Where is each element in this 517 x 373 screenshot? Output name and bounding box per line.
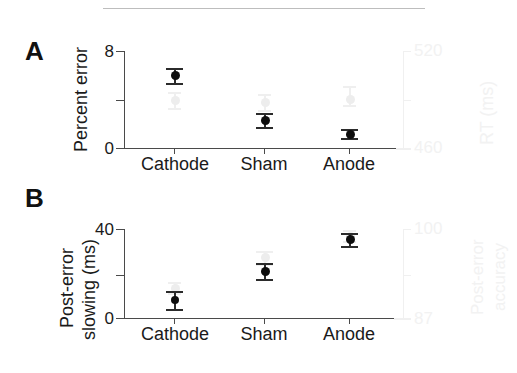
- panel-a-y-tick-8: [116, 51, 124, 52]
- panel-a-gray-point-cathode: [171, 96, 180, 105]
- panel-b-x-label-anode: Anode: [300, 325, 398, 343]
- panel-a-cap-top-sham: [256, 113, 273, 115]
- panel-b-x-label-sham: Sham: [215, 325, 313, 343]
- panel-b-y-tick-0: [116, 318, 124, 319]
- panel-b-right-axis-title-line2: accuracy: [490, 243, 509, 311]
- panel-a-cap-bottom-cathode: [166, 83, 183, 85]
- panel-a-right-ticklabel-top: 520: [414, 42, 458, 59]
- panel-b-letter: B: [25, 185, 44, 211]
- panel-a-y-axis-title: Percent error: [72, 47, 91, 152]
- panel-b-y-ticklabel-bottom: 0: [82, 310, 114, 327]
- panel-a-point-cathode: [171, 71, 180, 80]
- panel-b-y-tick-40: [116, 229, 124, 230]
- panel-a-point-sham: [261, 116, 270, 125]
- panel-b-right-tick-100: [403, 229, 411, 230]
- panel-a-y-tick-4: [116, 100, 124, 101]
- panel-a-gray-point-sham: [261, 98, 270, 107]
- panel-a-right-tick-mid: [403, 100, 411, 101]
- panel-b-point-sham: [261, 267, 270, 276]
- panel-b-gray-point-sham: [261, 253, 270, 262]
- panel-a-y-tick-0: [116, 148, 124, 149]
- panel-a-gray-cap-bottom-cathode: [168, 108, 181, 110]
- panel-a-x-label-sham: Sham: [215, 155, 313, 173]
- panel-b-cap-bottom-anode: [341, 246, 358, 248]
- panel-a-x-label-anode: Anode: [300, 155, 398, 173]
- panel-b-y-axis-line: [124, 229, 125, 319]
- panel-b-cap-bottom-cathode: [166, 309, 183, 311]
- panel-a-gray-cap-bottom-sham: [258, 110, 271, 112]
- panel-a-right-axis-title: RT (ms): [478, 81, 497, 145]
- panel-b-cap-top-cathode: [166, 291, 183, 293]
- panel-a-right-ticklabel-bottom: 460: [414, 139, 458, 156]
- panel-b-right-tick-mid: [403, 275, 411, 276]
- panel-a-right-tick-460: [396, 148, 411, 150]
- panel-b-right-ticklabel-top: 100: [414, 220, 464, 237]
- panel-b-right-ticklabel-bottom: 87: [414, 310, 464, 327]
- panel-b-point-cathode: [171, 296, 179, 304]
- panel-a-y-axis-line: [124, 51, 125, 149]
- panel-a-cap-top-cathode: [166, 68, 183, 70]
- panel-b-cap-bottom-sham: [256, 279, 273, 281]
- panel-a-y-ticklabel-bottom: 0: [92, 140, 114, 157]
- panel-a-gray-cap-top-cathode: [168, 92, 181, 94]
- panel-b-y-ticklabel-top: 40: [82, 221, 114, 238]
- panel-a-x-axis-line: [124, 148, 402, 149]
- panel-a-y-ticklabel-top: 8: [92, 43, 114, 60]
- panel-b-point-anode: [346, 235, 355, 244]
- panel-b-y-tick-20: [116, 275, 124, 276]
- panel-a-letter: A: [25, 38, 44, 64]
- panel-b-cap-top-sham: [256, 263, 273, 265]
- panel-b-y-axis-title-line1: Post-error: [58, 248, 77, 328]
- top-divider-rule: [103, 8, 425, 9]
- panel-a-gray-point-anode: [346, 95, 355, 104]
- panel-a-gray-cap-top-anode: [343, 86, 356, 88]
- figure-canvas: A Percent error 8 0 520 460 RT (ms) Cath…: [0, 0, 517, 373]
- panel-a-gray-cap-bottom-anode: [343, 105, 356, 107]
- panel-a-gray-cap-top-sham: [258, 94, 271, 96]
- panel-b-x-axis-line: [124, 318, 402, 319]
- panel-a-point-anode: [346, 130, 355, 139]
- panel-b-right-axis-title-line1: Post-error: [468, 239, 487, 315]
- panel-b-right-axis-line: [403, 229, 404, 319]
- panel-a-right-tick-520: [403, 51, 411, 52]
- panel-b-right-tick-87: [394, 318, 411, 320]
- panel-a-cap-bottom-sham: [256, 127, 273, 129]
